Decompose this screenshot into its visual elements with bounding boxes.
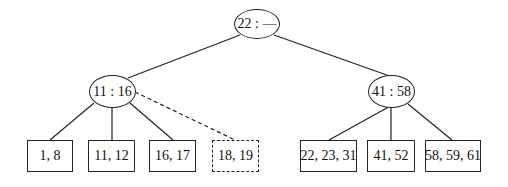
- leaf-node-4-label: 18, 19: [218, 148, 253, 164]
- edge-left-leaf4-dashed: [135, 92, 235, 140]
- leaf-node-5-label: 22, 23, 31: [301, 148, 357, 164]
- leaf-node-1-label: 1, 8: [40, 148, 61, 164]
- root-node: 22 : —: [234, 9, 280, 39]
- root-node-label: 22 : —: [238, 16, 277, 32]
- leaf-node-6-label: 41, 52: [374, 148, 409, 164]
- leaf-node-4-dashed: 18, 19: [212, 140, 259, 172]
- leaf-node-6: 41, 52: [367, 140, 415, 172]
- leaf-node-2: 11, 12: [88, 140, 135, 172]
- leaf-node-7-label: 58, 59, 61: [425, 148, 481, 164]
- internal-node-right-label: 41 : 58: [372, 84, 411, 100]
- edge-right-leaf7: [408, 104, 452, 140]
- internal-node-left: 11 : 16: [89, 75, 136, 108]
- leaf-node-3: 16, 17: [149, 140, 196, 172]
- edge-right-leaf5: [329, 104, 394, 140]
- internal-node-left-label: 11 : 16: [93, 84, 131, 100]
- edge-root-left: [128, 35, 240, 78]
- leaf-node-1: 1, 8: [27, 140, 73, 172]
- leaf-node-3-label: 16, 17: [155, 148, 190, 164]
- leaf-node-2-label: 11, 12: [94, 148, 128, 164]
- edge-left-leaf1: [50, 103, 94, 140]
- internal-node-right: 41 : 58: [368, 75, 415, 108]
- edge-root-right: [274, 35, 398, 79]
- edge-left-leaf3: [130, 103, 173, 140]
- leaf-node-7: 58, 59, 61: [425, 140, 481, 172]
- leaf-node-5: 22, 23, 31: [300, 140, 357, 172]
